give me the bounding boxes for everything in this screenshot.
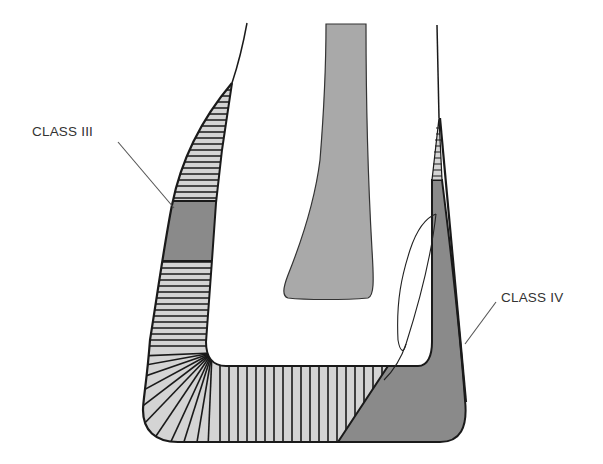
class-iii-label: CLASS III [32, 124, 93, 139]
class-iv-label: CLASS IV [501, 290, 563, 305]
class-iii-leader [118, 142, 174, 208]
tooth-diagram: CLASS III CLASS IV [0, 0, 603, 464]
labial-outline [232, 23, 247, 83]
pulp-canal [284, 24, 373, 300]
marginal-outline [398, 214, 436, 350]
class-iv-leader [465, 302, 496, 344]
lingual-outline [437, 25, 439, 118]
class-iii-lesion [140, 201, 222, 261]
